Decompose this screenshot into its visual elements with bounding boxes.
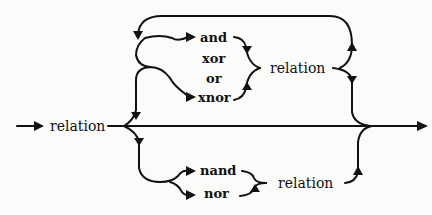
top-exit-arrow-icon <box>347 76 357 84</box>
bottom-relation-label: relation <box>278 175 333 191</box>
nand-merge-line <box>242 171 266 183</box>
xnor-entry-arrow-icon <box>186 92 196 102</box>
entry-relation-label: relation <box>50 118 105 134</box>
bottom-exit-arrow-icon <box>353 166 363 175</box>
to-and-line <box>136 36 188 67</box>
xnor-merge-arrow-icon <box>242 82 252 90</box>
and-entry-arrow-icon <box>186 32 196 42</box>
up-branch-line <box>124 80 136 126</box>
down-arrow-icon <box>134 138 144 146</box>
nor-entry-arrow-icon <box>186 190 196 200</box>
loop-down-arrow-icon <box>133 31 143 40</box>
operator-nor: nor <box>204 186 229 201</box>
and-merge-arrow-icon <box>242 46 252 54</box>
exit-arrow-icon <box>417 121 428 131</box>
to-nor-line <box>170 182 188 195</box>
operator-xor: xor <box>202 51 225 66</box>
loop-up-arrow-icon <box>347 42 357 51</box>
top-relation-label: relation <box>270 60 325 76</box>
nand-entry-arrow-icon <box>186 166 196 176</box>
operator-nand: nand <box>200 163 236 178</box>
syntax-diagram: relation and xor or xnor relation nand n… <box>0 0 432 215</box>
to-nand-line <box>124 126 188 182</box>
operator-and: and <box>200 30 227 45</box>
nor-merge-arrow-icon <box>250 184 260 192</box>
operator-or: or <box>206 71 222 86</box>
entry-arrow-icon <box>34 121 44 131</box>
operator-xnor: xnor <box>198 90 231 105</box>
to-xnor-line <box>136 67 188 96</box>
